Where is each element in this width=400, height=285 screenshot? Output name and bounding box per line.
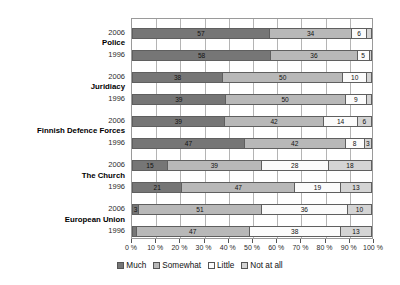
- bar-segment-value: 38: [291, 228, 298, 235]
- year-label: 2006: [108, 160, 125, 169]
- bar-row: 15392818: [132, 160, 372, 171]
- bar-segment-much: 47: [132, 138, 245, 149]
- bar-segment-value: 3: [134, 206, 138, 213]
- group-name-label: Juridiacy: [91, 82, 125, 91]
- bar-segment-value: 13: [352, 184, 359, 191]
- bar-segment-value: 5: [361, 52, 365, 59]
- bar-segment-much: 58: [132, 50, 271, 61]
- legend-swatch-icon: [208, 262, 215, 269]
- legend-label: Much: [126, 261, 146, 270]
- year-label: 2006: [108, 72, 125, 81]
- bar-row: 395092: [132, 94, 372, 105]
- bar-segment-value: 39: [175, 96, 182, 103]
- year-label: 1996: [108, 94, 125, 103]
- legend-item-not-at-all[interactable]: Not at all: [241, 261, 282, 270]
- bar-segment-little: 19: [295, 182, 341, 193]
- legend-swatch-icon: [241, 262, 248, 269]
- category-group: 20061996Juridiacy: [0, 62, 129, 106]
- bar-segment-value: 50: [281, 96, 288, 103]
- bar-segment-value: 28: [291, 162, 298, 169]
- x-axis-tick-label: 50 %: [244, 243, 260, 252]
- bar-segment-not-at-all: 2: [367, 94, 372, 105]
- x-axis-tick-label: 100 %: [363, 243, 383, 252]
- legend-item-little[interactable]: Little: [208, 261, 234, 270]
- category-group: 20061996Police: [0, 18, 129, 62]
- bar-segment-value: 15: [146, 162, 153, 169]
- bar-segment-value: 39: [175, 118, 182, 125]
- bar-segment-value: 47: [235, 184, 242, 191]
- bar-segment-much: 39: [132, 94, 226, 105]
- bar-row: 573462: [132, 28, 372, 39]
- bar-segment-much: 39: [132, 116, 225, 127]
- bar-segment-value: 10: [351, 74, 358, 81]
- x-axis-tick-label: 60 %: [268, 243, 284, 252]
- legend-item-much[interactable]: Much: [117, 261, 146, 270]
- bar-row: 3850102: [132, 72, 372, 83]
- year-label: 1996: [108, 226, 125, 235]
- bar-segment-value: 10: [356, 206, 363, 213]
- bar-segment-value: 14: [337, 118, 344, 125]
- legend-swatch-icon: [117, 262, 124, 269]
- year-label: 1996: [108, 182, 125, 191]
- bar-segment-value: 57: [197, 30, 204, 37]
- bar-segment-much: 3: [132, 204, 139, 215]
- bar-segment-not-at-all: 6: [358, 116, 372, 127]
- stacked-bar-chart: 20061996Police20061996Juridiacy20061996F…: [0, 0, 400, 285]
- bar-segment-somewhat: 42: [225, 116, 325, 127]
- bar-segment-not-at-all: 2: [367, 28, 372, 39]
- group-name-label: Police: [102, 38, 125, 47]
- x-axis-tick-label: 20 %: [171, 243, 187, 252]
- year-label: 1996: [108, 50, 125, 59]
- x-axis-tick-labels: 0 %10 %20 %30 %40 %50 %60 %70 %80 %90 %1…: [131, 243, 373, 255]
- x-axis-tick-label: 70 %: [292, 243, 308, 252]
- x-axis-tick-label: 0 %: [125, 243, 137, 252]
- x-axis-tick-label: 40 %: [220, 243, 236, 252]
- bar-segment-little: 5: [358, 50, 370, 61]
- x-axis-tick-label: 90 %: [341, 243, 357, 252]
- legend-label: Little: [217, 261, 234, 270]
- bar-segment-value: 47: [185, 140, 192, 147]
- bar-segment-somewhat: 42: [245, 138, 346, 149]
- bar-segment-little: 6: [352, 28, 367, 39]
- year-label: 1996: [108, 138, 125, 147]
- bar-segment-somewhat: 34: [270, 28, 352, 39]
- bar-segment-value: 18: [346, 162, 353, 169]
- bar-segment-not-at-all: 1: [370, 50, 372, 61]
- bar-segment-somewhat: 36: [271, 50, 357, 61]
- bar-segment-value: 42: [270, 118, 277, 125]
- legend-swatch-icon: [153, 262, 160, 269]
- bar-segment-somewhat: 51: [139, 204, 261, 215]
- bar-segment-little: 14: [324, 116, 357, 127]
- legend-label: Somewhat: [162, 261, 201, 270]
- bar-segment-value: 6: [363, 118, 367, 125]
- bar-segment-much: 38: [132, 72, 223, 83]
- bar-segment-value: 21: [154, 184, 161, 191]
- bar-row: 21471913: [132, 182, 372, 193]
- bar-segment-value: 8: [353, 140, 357, 147]
- bar-segment-little: 38: [250, 226, 341, 237]
- bar-segment-somewhat: 50: [226, 94, 346, 105]
- bar-segment-value: 34: [307, 30, 314, 37]
- bar-segment-much: 15: [132, 160, 168, 171]
- year-label: 2006: [108, 116, 125, 125]
- bar-segment-value: 39: [211, 162, 218, 169]
- category-group: 20061996European Union: [0, 195, 129, 239]
- bar-segment-value: 36: [310, 52, 317, 59]
- bar-row: 474283: [132, 138, 372, 149]
- bar-segment-value: 9: [354, 96, 358, 103]
- bar-segment-little: 28: [262, 160, 329, 171]
- bar-segment-value: 19: [314, 184, 321, 191]
- bar-segment-value: 42: [291, 140, 298, 147]
- bar-row: 3513610: [132, 204, 372, 215]
- bar-segment-not-at-all: 2: [367, 72, 372, 83]
- bar-segment-little: 8: [346, 138, 365, 149]
- bar-segment-not-at-all: 3: [365, 138, 372, 149]
- bar-segment-much: 57: [132, 28, 270, 39]
- legend-item-somewhat[interactable]: Somewhat: [153, 261, 201, 270]
- chart-legend: MuchSomewhatLittleNot at all: [0, 261, 400, 270]
- bar-row: 3942146: [132, 116, 372, 127]
- bar-segment-value: 47: [189, 228, 196, 235]
- bar-segment-little: 9: [346, 94, 368, 105]
- bar-row: 2473813: [132, 226, 372, 237]
- x-axis-tick-label: 30 %: [196, 243, 212, 252]
